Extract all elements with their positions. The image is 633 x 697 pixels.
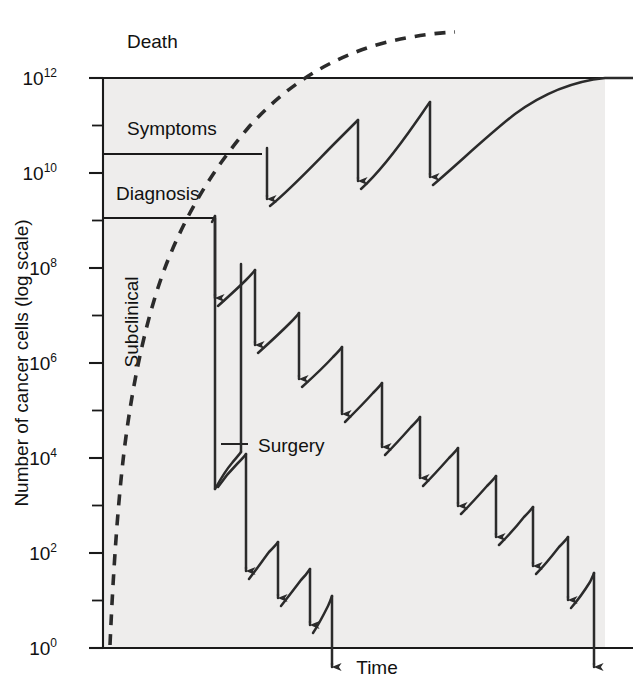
plot-background [103, 78, 605, 648]
y-tick-label-1e4: 104 [29, 446, 57, 469]
y-tick-label-1e6: 106 [29, 351, 57, 374]
y-tick-label-1e10: 1010 [23, 161, 58, 184]
diagnosis-label: Diagnosis [116, 183, 199, 204]
x-axis-label: Time [356, 657, 398, 678]
y-tick-label-1e8: 108 [29, 256, 57, 279]
cancer-cell-kinetics-figure: Number of cancer cells (log scale) 1012 … [0, 0, 633, 697]
symptoms-label: Symptoms [127, 118, 217, 139]
y-axis-ticks [89, 78, 103, 648]
y-tick-label-1e2: 102 [29, 541, 57, 564]
y-tick-label-1e0: 100 [29, 636, 57, 659]
subclinical-label: Subclinical [121, 277, 142, 368]
surgery-label: Surgery [258, 435, 325, 456]
death-label: Death [127, 31, 178, 52]
y-tick-label-1e12: 1012 [23, 66, 58, 89]
